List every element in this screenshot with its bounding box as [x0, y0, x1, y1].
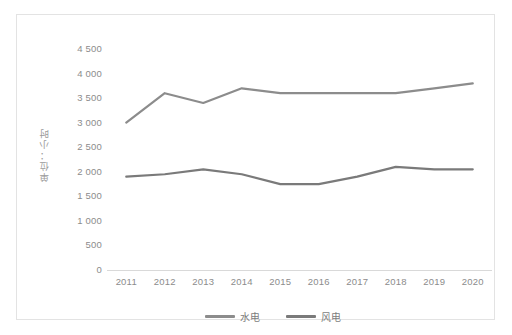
x-axis-tick: 2018 — [385, 276, 407, 287]
x-axis-tick: 2020 — [462, 276, 484, 287]
legend-swatch-icon — [286, 315, 316, 318]
y-axis-tick: 3 000 — [57, 117, 102, 128]
y-axis-title: 单位：小时 — [38, 127, 52, 182]
y-axis-tick: 2 000 — [57, 166, 102, 177]
chart-container: 单位：小时 05001 0001 5002 0002 5003 0003 500… — [16, 14, 495, 320]
series-layer — [107, 49, 492, 270]
legend-item-1[interactable]: 水电 — [205, 309, 260, 324]
legend-swatch-icon — [205, 315, 235, 318]
y-axis-tick: 1 500 — [57, 190, 102, 201]
x-axis-tick: 2016 — [308, 276, 330, 287]
y-axis-tick: 2 500 — [57, 141, 102, 152]
x-axis-tick: 2011 — [116, 276, 137, 287]
x-axis-tick: 2017 — [346, 276, 368, 287]
y-axis-tick: 1 000 — [57, 215, 102, 226]
x-axis-tick: 2013 — [192, 276, 214, 287]
series-line-1 — [126, 83, 473, 122]
x-axis-tick: 2015 — [269, 276, 291, 287]
y-axis-tick: 4 500 — [57, 43, 102, 54]
y-axis-tick: 4 000 — [57, 68, 102, 79]
x-axis-line — [107, 270, 492, 271]
x-axis-tick: 2012 — [154, 276, 176, 287]
y-axis-tick-labels: 05001 0001 5002 0002 5003 0003 5004 0004… — [57, 42, 102, 277]
y-axis-tick: 500 — [57, 239, 102, 250]
series-line-2 — [126, 167, 473, 184]
x-axis-tick: 2014 — [231, 276, 253, 287]
legend-label: 水电 — [240, 309, 260, 324]
x-axis-tick: 2019 — [423, 276, 445, 287]
chart-legend: 水电风电 — [17, 309, 512, 324]
y-axis-tick: 3 500 — [57, 92, 102, 103]
y-axis-tick: 0 — [57, 264, 102, 275]
legend-item-2[interactable]: 风电 — [286, 309, 341, 324]
x-axis-tick-labels: 2011201220132014201520162017201820192020 — [107, 276, 492, 292]
plot-area — [107, 49, 492, 270]
legend-label: 风电 — [321, 309, 341, 324]
